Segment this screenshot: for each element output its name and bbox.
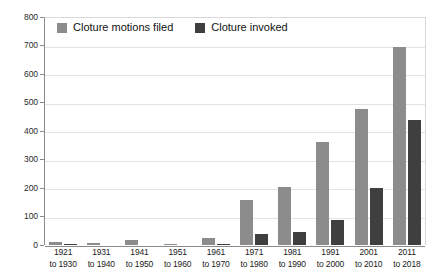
bar-filed — [87, 243, 100, 245]
bar-group — [311, 17, 349, 245]
bar-group — [44, 17, 82, 245]
x-axis-tick-label-line: 1991 — [311, 247, 349, 259]
x-axis-tick-label-line: to 1950 — [120, 259, 158, 271]
x-axis-tick-label-line: to 1990 — [273, 259, 311, 271]
bar-group — [120, 17, 158, 245]
bar-filed — [393, 47, 406, 245]
bar-filed — [278, 187, 291, 245]
x-axis-tick-label-line: to 2000 — [311, 259, 349, 271]
x-axis-tick-label-line: to 2010 — [350, 259, 388, 271]
y-axis-tick-label: 500 — [24, 98, 38, 107]
bar-chart: 0100200300400500600700800 1921to 1930193… — [0, 0, 440, 279]
chart-legend: Cloture motions filedCloture invoked — [57, 22, 288, 33]
x-axis-tick-label-line: to 1930 — [44, 259, 82, 271]
bar-invoked — [370, 188, 383, 245]
bar-invoked — [255, 234, 268, 245]
y-axis-tick: 100 — [0, 211, 44, 223]
y-axis-tick: 800 — [0, 11, 44, 23]
legend-label: Cloture motions filed — [73, 22, 173, 33]
x-axis-tick-label-line: 1951 — [159, 247, 197, 259]
x-axis-tick-label-line: 1921 — [44, 247, 82, 259]
bar-group — [235, 17, 273, 245]
x-axis-tick-label: 1991to 2000 — [311, 247, 349, 270]
x-axis-tick-label-line: 1961 — [197, 247, 235, 259]
bar-invoked — [408, 120, 421, 245]
bar-filed — [49, 242, 62, 245]
bar-group — [197, 17, 235, 245]
bar-filed — [316, 142, 329, 245]
bar-filed — [240, 200, 253, 245]
y-axis-tick: 200 — [0, 182, 44, 194]
x-axis-tick-label: 1971to 1980 — [235, 247, 273, 270]
x-axis: 1921to 19301931to 19401941to 19501951to … — [44, 247, 426, 279]
bar-filed — [355, 109, 368, 245]
legend-swatch-icon — [195, 23, 205, 33]
bar-filed — [202, 238, 215, 245]
x-axis-tick-label: 2001to 2010 — [350, 247, 388, 270]
y-axis-tick: 700 — [0, 40, 44, 52]
y-axis: 0100200300400500600700800 — [0, 0, 44, 262]
bar-filed — [125, 240, 138, 245]
bar-group — [350, 17, 388, 245]
x-axis-tick-label: 1961to 1970 — [197, 247, 235, 270]
x-axis-tick-label-line: 2011 — [388, 247, 426, 259]
x-axis-tick-label: 1981to 1990 — [273, 247, 311, 270]
y-axis-tick-label: 700 — [24, 41, 38, 50]
bars-layer — [44, 17, 426, 245]
y-axis-tick-label: 600 — [24, 70, 38, 79]
legend-swatch-icon — [57, 23, 67, 33]
bar-group — [273, 17, 311, 245]
y-axis-tick-label: 200 — [24, 184, 38, 193]
x-axis-tick-label-line: to 2018 — [388, 259, 426, 271]
y-axis-tick: 0 — [0, 239, 44, 251]
bar-group — [388, 17, 426, 245]
bar-group — [82, 17, 120, 245]
legend-label: Cloture invoked — [211, 22, 287, 33]
y-axis-tick-label: 300 — [24, 155, 38, 164]
y-axis-tick: 300 — [0, 154, 44, 166]
x-axis-tick-label: 1931to 1940 — [82, 247, 120, 270]
bar-filed — [164, 244, 177, 245]
y-axis-tick-label: 0 — [33, 241, 38, 250]
x-axis-tick-label: 1921to 1930 — [44, 247, 82, 270]
y-axis-tick: 400 — [0, 125, 44, 137]
y-axis-tick: 600 — [0, 68, 44, 80]
legend-item[interactable]: Cloture motions filed — [57, 22, 173, 33]
x-axis-tick-label: 1941to 1950 — [120, 247, 158, 270]
bar-invoked — [331, 220, 344, 245]
x-axis-tick-label-line: to 1940 — [82, 259, 120, 271]
bar-invoked — [217, 244, 230, 245]
x-axis-tick-label-line: 1931 — [82, 247, 120, 259]
x-axis-tick-label-line: 2001 — [350, 247, 388, 259]
x-axis-tick-label-line: to 1960 — [159, 259, 197, 271]
x-axis-tick-label-line: 1941 — [120, 247, 158, 259]
y-axis-tick-label: 100 — [24, 212, 38, 221]
y-axis-tick: 500 — [0, 97, 44, 109]
y-axis-tick-label: 800 — [24, 13, 38, 22]
x-axis-tick-label: 1951to 1960 — [159, 247, 197, 270]
x-axis-tick-label: 2011to 2018 — [388, 247, 426, 270]
x-axis-tick-label-line: 1971 — [235, 247, 273, 259]
x-axis-tick-label-line: 1981 — [273, 247, 311, 259]
bar-group — [159, 17, 197, 245]
x-axis-tick-label-line: to 1980 — [235, 259, 273, 271]
bar-invoked — [64, 244, 77, 245]
legend-item[interactable]: Cloture invoked — [195, 22, 287, 33]
x-axis-tick-label-line: to 1970 — [197, 259, 235, 271]
bar-invoked — [293, 232, 306, 245]
y-axis-tick-label: 400 — [24, 127, 38, 136]
